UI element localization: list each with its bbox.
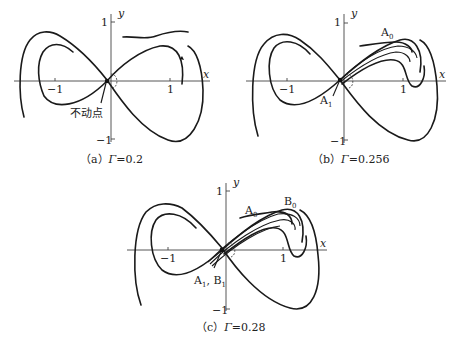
label-b0: B0 (284, 196, 297, 210)
a0-base: A (245, 204, 253, 217)
caption-value: =0.28 (232, 321, 266, 334)
x-tick-label-neg1: −1 (160, 253, 176, 264)
trajectory-loop (342, 60, 424, 87)
x-tick-label-1: 1 (167, 84, 174, 95)
caption-prefix: （a） (80, 153, 109, 166)
caption-a: （a）Γ=0.2 (80, 150, 143, 166)
caption-symbol: Γ (224, 321, 232, 334)
y-tick-label-neg1: −1 (212, 305, 228, 316)
x-axis-label: x (320, 238, 326, 249)
y-tick-label-1: 1 (101, 17, 108, 28)
label-a0: A0 (381, 27, 393, 41)
label-a0: A0 (245, 205, 257, 219)
x-tick-label-neg1: −1 (279, 84, 295, 95)
y-tick-label-1: 1 (334, 17, 341, 28)
x-tick-label-1: 1 (280, 253, 287, 264)
y-tick-label-neg1: −1 (330, 136, 346, 147)
trajectory-loop (224, 228, 306, 257)
y-axis-label: y (233, 177, 239, 188)
b1-sub: 1 (222, 281, 226, 289)
label-a1: A1 (320, 95, 332, 109)
caption-prefix: （c） (196, 321, 224, 334)
a0-sub: 0 (253, 211, 257, 219)
panel-b-plot (246, 14, 446, 143)
trajectory-top (123, 31, 188, 38)
panel-c-plot (127, 183, 327, 311)
y-tick-label-neg1: −1 (96, 135, 112, 146)
y-tick-label-1: 1 (216, 186, 223, 197)
fixed-point (105, 79, 109, 83)
x-axis-label: x (203, 69, 209, 80)
figure-canvas (0, 0, 456, 343)
caption-value: =0.256 (349, 153, 390, 166)
fixed-point (338, 78, 342, 82)
trajectory-bundle-3 (212, 226, 280, 266)
x-axis-label: x (439, 69, 445, 80)
a0-base: A (381, 26, 389, 39)
label-a1-b1: A1, B1 (194, 275, 226, 289)
x-tick-label-1: 1 (400, 84, 407, 95)
panel-a-plot (14, 14, 210, 142)
a1-sub: 1 (328, 101, 332, 109)
caption-symbol: Γ (341, 153, 349, 166)
y-axis-label: y (351, 8, 357, 19)
caption-value: =0.2 (116, 153, 143, 166)
a1-base: A (194, 274, 202, 287)
caption-c: （c）Γ=0.28 (196, 318, 266, 334)
fixed-point (220, 248, 225, 253)
y-axis-label: y (118, 8, 124, 19)
caption-b: （b）Γ=0.256 (312, 150, 389, 166)
a1-base: A (320, 94, 328, 107)
fixed-point-label: 不动点 (70, 108, 103, 119)
b0-base: B (284, 195, 292, 208)
caption-prefix: （b） (312, 153, 341, 166)
b0-sub: 0 (292, 202, 296, 210)
x-tick-label-neg1: −1 (47, 84, 63, 95)
b1-base: B (213, 274, 221, 287)
a0-sub: 0 (389, 33, 393, 41)
